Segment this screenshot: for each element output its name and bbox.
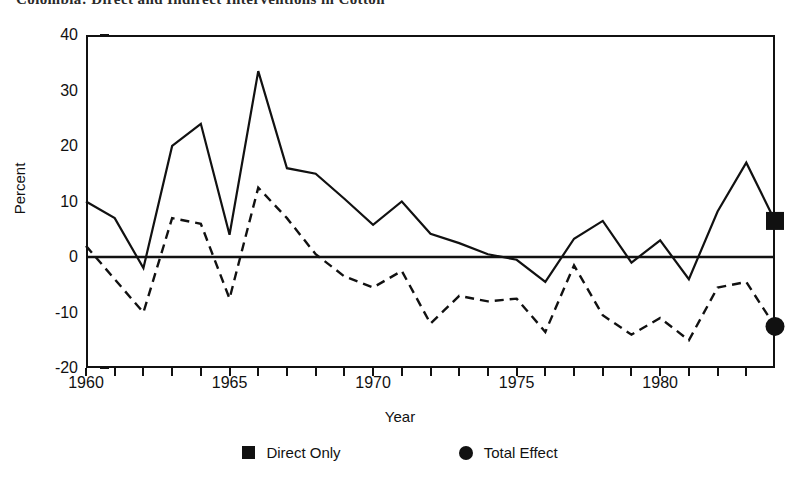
legend-entry-direct-only[interactable]: Direct Only — [242, 444, 340, 461]
chart-title: Colombia: Direct and Indirect Interventi… — [0, 0, 800, 8]
x-tick-mark — [401, 368, 403, 376]
x-tick-mark — [688, 368, 690, 376]
y-tick-label: 10 — [30, 193, 78, 211]
legend-label-direct-only: Direct Only — [266, 444, 340, 461]
x-tick-label: 1965 — [212, 374, 248, 392]
x-tick-mark — [343, 368, 345, 376]
x-tick-mark — [602, 368, 604, 376]
x-tick-mark — [257, 368, 259, 376]
x-tick-label: 1960 — [68, 374, 104, 392]
x-axis-label: Year — [0, 408, 800, 425]
circle-marker-icon — [459, 446, 473, 460]
x-tick-mark — [142, 368, 144, 376]
series-line-direct-only — [86, 71, 775, 282]
x-tick-mark — [430, 368, 432, 376]
x-tick-mark — [200, 368, 202, 376]
plot-area — [86, 35, 775, 368]
x-tick-mark — [630, 368, 632, 376]
y-tick-label: 30 — [30, 82, 78, 100]
x-tick-mark — [544, 368, 546, 376]
x-tick-mark — [573, 368, 575, 376]
series-line-total-effect — [86, 188, 775, 341]
x-tick-label: 1970 — [355, 374, 391, 392]
endpoint-square-marker-direct-only — [766, 212, 784, 230]
x-tick-mark — [286, 368, 288, 376]
legend-entry-total-effect[interactable]: Total Effect — [459, 444, 558, 461]
y-tick-label: -10 — [30, 304, 78, 322]
square-marker-icon — [242, 446, 255, 459]
x-tick-mark — [487, 368, 489, 376]
x-tick-mark — [315, 368, 317, 376]
x-tick-mark — [745, 368, 747, 376]
x-tick-label: 1980 — [642, 374, 678, 392]
x-tick-mark — [114, 368, 116, 376]
legend-label-total-effect: Total Effect — [484, 444, 558, 461]
y-tick-label: 20 — [30, 137, 78, 155]
endpoint-circle-marker-total-effect — [766, 317, 785, 336]
x-tick-label: 1975 — [499, 374, 535, 392]
x-tick-mark — [717, 368, 719, 376]
y-tick-label: 40 — [30, 26, 78, 44]
x-tick-mark — [458, 368, 460, 376]
y-tick-label: 0 — [30, 248, 78, 266]
x-tick-mark — [171, 368, 173, 376]
chart-legend: Direct Only Total Effect — [0, 444, 800, 461]
y-axis-label: Percent — [11, 163, 28, 215]
chart-lines-svg — [86, 35, 775, 368]
